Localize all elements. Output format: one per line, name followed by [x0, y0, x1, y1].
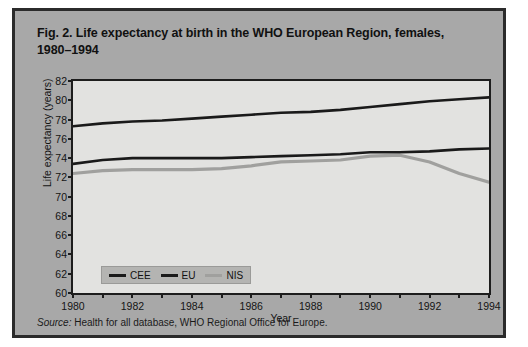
- x-axis-tickmark-1990: [369, 293, 371, 298]
- figure-panel: Fig. 2. Life expectancy at birth in the …: [12, 8, 506, 338]
- plot-inner: 6062646668707274767880821980198219841986…: [73, 81, 489, 293]
- x-axis-tickmark-1988: [310, 293, 312, 298]
- y-axis-tickmark-78: [68, 119, 73, 121]
- x-axis-tickmark-1986: [250, 293, 252, 298]
- figure-title-line-1: Fig. 2. Life expectancy at birth in the …: [37, 25, 487, 42]
- legend-label-eu: EU: [182, 270, 196, 281]
- source-note: Source: Health for all database, WHO Reg…: [37, 317, 328, 328]
- x-axis-tick-1992: 1992: [418, 300, 441, 312]
- y-axis-tick-70: 70: [55, 191, 67, 203]
- x-axis-tick-1994: 1994: [477, 300, 500, 312]
- legend-swatch-nis: [205, 274, 222, 277]
- y-axis-tickmark-70: [68, 196, 73, 198]
- figure-title: Fig. 2. Life expectancy at birth in the …: [37, 25, 487, 59]
- y-axis-tick-76: 76: [55, 133, 67, 145]
- legend-item-nis: NIS: [205, 270, 243, 281]
- y-axis-tick-62: 62: [55, 268, 67, 280]
- y-axis-tick-82: 82: [55, 75, 67, 87]
- x-axis-tickmark-1981: [102, 293, 104, 298]
- x-axis-tick-1982: 1982: [121, 300, 144, 312]
- x-axis-tickmark-1984: [191, 293, 193, 298]
- y-axis-tick-80: 80: [55, 94, 67, 106]
- source-text: Health for all database, WHO Regional Of…: [71, 317, 327, 328]
- series-line-eu: [73, 97, 489, 126]
- y-axis-tick-68: 68: [55, 210, 67, 222]
- figure-title-line-2: 1980–1994: [37, 42, 487, 59]
- x-axis-tick-1990: 1990: [358, 300, 381, 312]
- y-axis-tickmark-74: [68, 157, 73, 159]
- legend-label-cee: CEE: [130, 270, 151, 281]
- y-axis-tick-78: 78: [55, 114, 67, 126]
- x-axis-tickmark-1993: [458, 293, 460, 298]
- x-axis-tick-1980: 1980: [61, 300, 84, 312]
- plot-area: 6062646668707274767880821980198219841986…: [71, 79, 491, 295]
- y-axis-tickmark-72: [68, 176, 73, 178]
- x-axis-tick-1988: 1988: [299, 300, 322, 312]
- y-axis-tick-72: 72: [55, 171, 67, 183]
- chart-legend: CEEEUNIS: [101, 266, 251, 284]
- legend-label-nis: NIS: [226, 270, 243, 281]
- x-axis-tick-1986: 1986: [240, 300, 263, 312]
- y-axis-label: Life expectancy (years): [41, 78, 53, 187]
- chart-lines: [73, 81, 489, 293]
- y-axis-tickmark-76: [68, 138, 73, 140]
- x-axis-tickmark-1985: [221, 293, 223, 298]
- y-axis-tickmark-66: [68, 234, 73, 236]
- x-axis-tickmark-1987: [280, 293, 282, 298]
- y-axis-tickmark-80: [68, 99, 73, 101]
- x-axis-tick-1984: 1984: [180, 300, 203, 312]
- x-axis-tickmark-1992: [429, 293, 431, 298]
- y-axis-tick-66: 66: [55, 229, 67, 241]
- y-axis-tick-64: 64: [55, 248, 67, 260]
- y-axis-tickmark-82: [68, 80, 73, 82]
- y-axis-tickmark-64: [68, 253, 73, 255]
- y-axis-tick-74: 74: [55, 152, 67, 164]
- y-axis-tickmark-68: [68, 215, 73, 217]
- x-axis-tickmark-1982: [131, 293, 133, 298]
- y-axis-tick-60: 60: [55, 287, 67, 299]
- source-prefix: Source:: [37, 317, 71, 328]
- y-axis-tickmark-62: [68, 273, 73, 275]
- x-axis-tickmark-1994: [488, 293, 490, 298]
- x-axis-tickmark-1989: [339, 293, 341, 298]
- legend-swatch-cee: [109, 274, 126, 277]
- x-axis-tickmark-1983: [161, 293, 163, 298]
- legend-swatch-eu: [161, 274, 178, 277]
- x-axis-tickmark-1991: [399, 293, 401, 298]
- legend-item-cee: CEE: [109, 270, 151, 281]
- legend-item-eu: EU: [161, 270, 196, 281]
- x-axis-tickmark-1980: [72, 293, 74, 298]
